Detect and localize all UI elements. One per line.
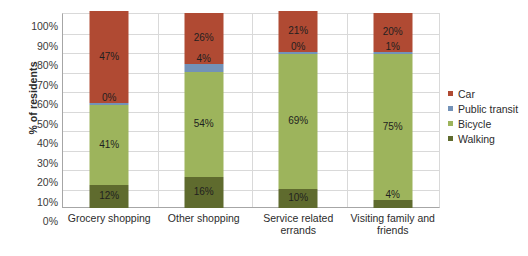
- bar-segment-value-label: 0%: [102, 93, 116, 103]
- x-axis-label: Service related errands: [251, 212, 346, 236]
- y-axis-tick-label: 90%: [16, 40, 58, 52]
- bar-segment-value-label: 21%: [288, 26, 308, 36]
- bar-segment-value-label: 75%: [383, 122, 403, 132]
- legend-item-car[interactable]: Car: [448, 86, 526, 101]
- x-axis-label: Other shopping: [157, 212, 252, 224]
- bar-segment-car[interactable]: 47%: [90, 11, 129, 103]
- chart-legend: CarPublic transitBicycleWalking: [448, 86, 526, 146]
- legend-item-bicycle[interactable]: Bicycle: [448, 116, 526, 131]
- legend-swatch-icon: [448, 91, 453, 96]
- stacked-bar[interactable]: 20%1%75%4%: [373, 13, 412, 208]
- bar-segment-bicycle[interactable]: 69%: [279, 54, 318, 189]
- bar-segment-bicycle[interactable]: 54%: [184, 72, 223, 177]
- bar-segment-bicycle[interactable]: 75%: [373, 54, 412, 200]
- stacked-bar[interactable]: 26%4%54%16%: [184, 13, 223, 208]
- bar-segment-walking[interactable]: 10%: [279, 189, 318, 209]
- legend-label: Car: [458, 88, 475, 100]
- bar-segment-value-label: 47%: [99, 52, 119, 62]
- legend-item-walking[interactable]: Walking: [448, 131, 526, 146]
- stacked-bar[interactable]: 21%0%69%10%: [279, 11, 318, 208]
- bar-segment-value-label: 26%: [194, 33, 214, 43]
- bar-group: 21%0%69%10%: [251, 13, 346, 208]
- y-axis-tick-label: 0%: [16, 215, 58, 227]
- bar-segment-value-label: 69%: [288, 116, 308, 126]
- bar-segment-value-label: 16%: [194, 187, 214, 197]
- bar-segment-value-label: 12%: [99, 191, 119, 201]
- y-axis-tick-label: 80%: [16, 59, 58, 71]
- legend-item-public-transit[interactable]: Public transit: [448, 101, 526, 116]
- bar-group: 47%0%41%12%: [62, 13, 157, 208]
- y-axis-tick-label: 60%: [16, 98, 58, 110]
- y-axis-tick-label: 20%: [16, 176, 58, 188]
- bar-segment-value-label: 4%: [386, 190, 400, 200]
- y-axis-tick-label: 100%: [16, 20, 58, 32]
- y-axis-tick-label: 50%: [16, 118, 58, 130]
- bar-group: 20%1%75%4%: [346, 13, 441, 208]
- bar-segment-value-label: 54%: [194, 119, 214, 129]
- bar-segment-value-label: 0%: [291, 42, 305, 52]
- legend-label: Bicycle: [458, 118, 491, 130]
- x-axis-label: Grocery shopping: [62, 212, 157, 224]
- y-axis-tick-label: 40%: [16, 137, 58, 149]
- legend-swatch-icon: [448, 136, 453, 141]
- bar-segment-walking[interactable]: 12%: [90, 185, 129, 208]
- x-axis-label: Visiting family and friends: [346, 212, 441, 236]
- bar-segment-value-label: 10%: [288, 193, 308, 203]
- bar-segment-value-label: 41%: [99, 140, 119, 150]
- legend-swatch-icon: [448, 121, 453, 126]
- bars-layer: 47%0%41%12%26%4%54%16%21%0%69%10%20%1%75…: [62, 13, 440, 208]
- y-axis-tick-labels: 0%10%20%30%40%50%60%70%80%90%100%: [12, 13, 58, 208]
- bar-segment-value-label: 20%: [383, 27, 403, 37]
- bar-group: 26%4%54%16%: [157, 13, 252, 208]
- bar-segment-walking[interactable]: 4%: [373, 200, 412, 208]
- y-axis-tick-label: 10%: [16, 196, 58, 208]
- legend-swatch-icon: [448, 106, 453, 111]
- y-axis-tick-label: 30%: [16, 157, 58, 169]
- bar-segment-value-label: 4%: [197, 54, 211, 64]
- y-axis-tick-label: 70%: [16, 79, 58, 91]
- bar-segment-walking[interactable]: 16%: [184, 177, 223, 208]
- legend-label: Walking: [458, 133, 495, 145]
- stacked-bar-chart: % of residents 0%10%20%30%40%50%60%70%80…: [0, 0, 528, 256]
- bar-segment-value-label: 1%: [386, 42, 400, 52]
- legend-label: Public transit: [458, 103, 518, 115]
- bar-segment-bicycle[interactable]: 41%: [90, 105, 129, 185]
- bar-segment-public-transit[interactable]: 4%: [184, 64, 223, 72]
- x-axis-category-labels: Grocery shoppingOther shoppingService re…: [62, 212, 440, 252]
- stacked-bar[interactable]: 47%0%41%12%: [90, 11, 129, 208]
